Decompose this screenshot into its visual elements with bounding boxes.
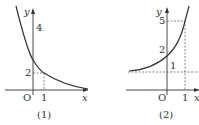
tick-label-2: 2 — [159, 44, 165, 55]
caption-2: (2) — [159, 109, 173, 120]
x-axis-label: x — [82, 92, 88, 103]
graphs-svg: y 4 2 O 1 x (1) y 5 2 1 O 1 x (2) — [0, 0, 199, 125]
x-axis-label: x — [194, 92, 199, 103]
tick-label-2: 2 — [25, 67, 31, 78]
graph-2: y 5 2 1 O 1 x (2) — [126, 6, 199, 120]
tick-label-x1: 1 — [41, 92, 47, 103]
graph-1: y 4 2 O 1 x (1) — [5, 6, 88, 120]
figure-canvas: y 4 2 O 1 x (1) y 5 2 1 O 1 x (2) — [0, 0, 199, 125]
caption-1: (1) — [37, 109, 51, 120]
y-axis-arrow-icon — [165, 7, 169, 13]
tick-label-4: 4 — [36, 22, 42, 33]
origin-label: O — [158, 92, 166, 103]
tick-label-x1: 1 — [182, 92, 188, 103]
tick-label-5: 5 — [159, 15, 165, 26]
origin-label: O — [23, 92, 31, 103]
tick-label-1: 1 — [170, 60, 176, 71]
y-axis-arrow-icon — [31, 8, 35, 14]
y-axis-label: y — [23, 6, 30, 17]
